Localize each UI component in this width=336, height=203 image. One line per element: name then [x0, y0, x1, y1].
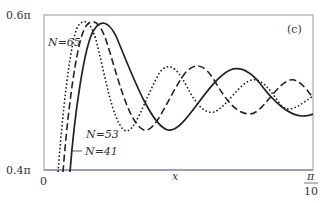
annotation-n41: N=41: [84, 145, 118, 158]
annotation-n53: N=53: [85, 128, 119, 141]
y-tick-bottom: 0.4π: [6, 164, 31, 177]
x-tick-zero: 0: [40, 175, 47, 188]
x-tick-ten: 10: [304, 185, 318, 198]
y-tick-top: 0.6π: [6, 9, 31, 22]
panel-label: (c): [287, 23, 302, 36]
x-axis-label: x: [172, 170, 179, 183]
chart: 0.6π 0.4π 0 π 10 x (c) N=65 N=53 N=41: [0, 0, 336, 203]
annotation-n65: N=65: [47, 36, 81, 49]
x-tick-pi: π: [306, 170, 315, 183]
